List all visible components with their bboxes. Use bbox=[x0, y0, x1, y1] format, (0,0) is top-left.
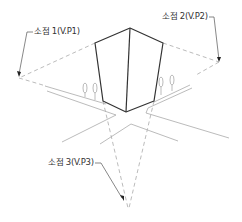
vp-markers bbox=[17, 57, 221, 201]
vp1-arrow-icon bbox=[17, 71, 21, 77]
perspective-diagram: 소점 1(V.P1) 소점 2(V.P2) 소점 3(V.P3) bbox=[0, 0, 242, 222]
vp2-label: 소점 2(V.P2) bbox=[162, 11, 208, 21]
trees bbox=[83, 75, 174, 100]
road-lines bbox=[45, 85, 229, 144]
building bbox=[95, 28, 163, 112]
vp3-label: 소점 3(V.P3) bbox=[48, 157, 94, 167]
vp1-construction-lines bbox=[19, 43, 103, 101]
vp1-label: 소점 1(V.P1) bbox=[34, 26, 80, 36]
vp3-arrow-icon bbox=[120, 195, 124, 201]
vp3-construction-lines bbox=[103, 101, 154, 208]
vp2-construction-lines bbox=[163, 43, 219, 75]
